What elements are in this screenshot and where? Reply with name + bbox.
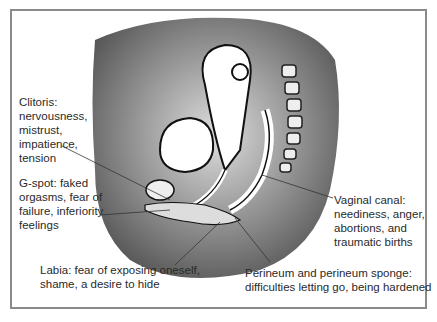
label-labia: Labia: fear of exposing oneself, shame, …: [40, 263, 200, 291]
label-g-spot: G-spot: faked orgasms, fear of failure, …: [19, 176, 103, 232]
label-clitoris: Clitoris: nervousness, mistrust, impatie…: [19, 95, 87, 165]
label-perineum: Perineum and perineum sponge: difficulti…: [245, 266, 431, 294]
label-vaginal-canal: Vaginal canal: neediness, anger, abortio…: [334, 193, 425, 249]
